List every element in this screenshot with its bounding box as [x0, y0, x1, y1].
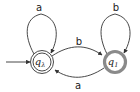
self-loop-q-lambda-label: a: [36, 2, 42, 13]
edge-q-lambda-to-q-1-label: b: [76, 36, 82, 47]
state-q-lambda-subscript: λ: [40, 61, 45, 69]
state-q-1: q1: [105, 52, 126, 73]
state-q-1-subscript: 1: [114, 61, 118, 69]
self-loop-q-1: [101, 14, 130, 54]
edge-q-1-to-q-lambda-label: a: [75, 80, 81, 91]
state-q-lambda: qλ: [31, 51, 54, 74]
edge-q-lambda-to-q-1: [52, 47, 102, 56]
edge-q-1-to-q-lambda: [55, 68, 104, 77]
automaton-diagram: a b b a qλ q1: [0, 0, 140, 92]
self-loop-q-1-label: b: [113, 2, 119, 13]
self-loop-q-lambda: [27, 14, 56, 54]
